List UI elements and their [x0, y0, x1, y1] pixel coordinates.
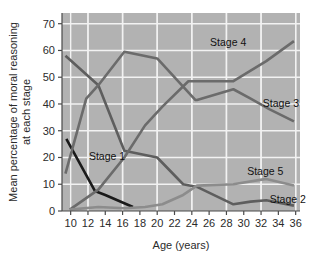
y-tick-label: 70	[43, 18, 55, 30]
x-tick-label: 22	[168, 217, 180, 229]
y-tick-label: 60	[43, 44, 55, 56]
y-axis-title-line1: Mean percentage of moral reasoning	[7, 22, 19, 202]
x-tick-label: 18	[134, 217, 146, 229]
series-label-stage-4: Stage 4	[210, 36, 246, 48]
chart-container: 010203040506070 101214161820222426283032…	[0, 0, 314, 261]
x-tick-label: 26	[203, 217, 215, 229]
y-tick-label: 0	[49, 205, 55, 217]
x-tick-label: 12	[82, 217, 94, 229]
y-axis-title-line2: at each stage	[20, 79, 32, 145]
y-tick-label: 40	[43, 98, 55, 110]
x-axis-title: Age (years)	[153, 239, 210, 251]
y-tick-label: 20	[43, 151, 55, 163]
series-label-stage-1: Stage 1	[89, 150, 125, 162]
x-tick-label: 36	[290, 217, 302, 229]
x-tick-label: 16	[116, 217, 128, 229]
x-tick-label: 20	[151, 217, 163, 229]
series-label-stage-3: Stage 3	[263, 97, 299, 109]
x-tick-label: 28	[220, 217, 232, 229]
series-label-stage-2: Stage 2	[270, 193, 306, 205]
series-label-stage-5: Stage 5	[247, 165, 283, 177]
x-tick-label: 24	[186, 217, 198, 229]
y-tick-label: 10	[43, 178, 55, 190]
y-tick-label: 50	[43, 71, 55, 83]
moral-reasoning-line-chart: 010203040506070 101214161820222426283032…	[0, 0, 314, 261]
x-tick-label: 10	[65, 217, 77, 229]
x-tick-label: 14	[99, 217, 111, 229]
x-tick-label: 34	[272, 217, 284, 229]
y-tick-label: 30	[43, 125, 55, 137]
x-tick-label: 32	[255, 217, 267, 229]
x-tick-label: 30	[238, 217, 250, 229]
